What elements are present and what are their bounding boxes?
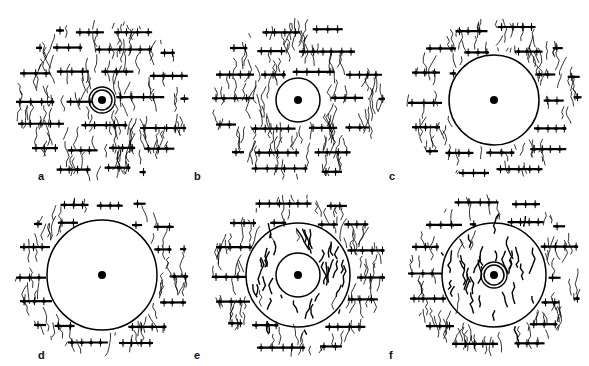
- dendrite-network-diagram: [0, 0, 196, 183]
- panel-label: f: [389, 349, 393, 361]
- panel-e: e: [196, 183, 392, 366]
- panel-b: b: [196, 0, 392, 183]
- panel-label: a: [38, 170, 44, 182]
- panel-c: c: [392, 0, 588, 183]
- panel-label: c: [389, 170, 395, 182]
- panel-label: d: [38, 349, 45, 361]
- dendrite-network-diagram: [0, 183, 196, 366]
- dendrite-network-diagram: [196, 0, 392, 183]
- panel-a: a: [0, 0, 196, 183]
- panel-d: d: [0, 183, 196, 366]
- dendrite-network-diagram: [392, 183, 588, 366]
- panel-label: e: [194, 349, 200, 361]
- panel-f: f: [392, 183, 588, 366]
- dendrite-network-diagram: [392, 0, 588, 183]
- panel-label: b: [194, 170, 201, 182]
- dendrite-network-diagram: [196, 183, 392, 366]
